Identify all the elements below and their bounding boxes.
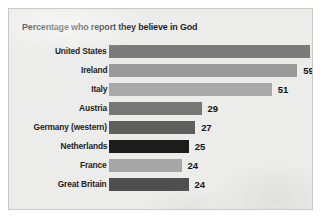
bar-category-label: Germany (western) [34, 119, 107, 136]
bar-row: Netherlands25 [9, 138, 312, 155]
bar-row: Austria29 [9, 100, 312, 117]
bar-category-label: Ireland [81, 62, 107, 79]
bar-track: 63 [109, 45, 308, 58]
bar-row: Italy51 [9, 81, 312, 98]
bar-category-label: Netherlands [60, 138, 107, 155]
bar-row: Ireland59 [9, 62, 312, 79]
bar-chart-plot-area: United States63Ireland59Italy51Austria29… [9, 43, 312, 195]
bar-value-label: 51 [278, 83, 288, 96]
bar-value-label: 25 [195, 140, 205, 153]
bar-value-label: 24 [195, 178, 205, 191]
chart-figure: Percentage who report they believe in Go… [8, 8, 313, 210]
bar-track: 24 [109, 159, 308, 172]
bar-track: 24 [109, 178, 308, 191]
bar [109, 64, 297, 77]
bar-row: Great Britain24 [9, 176, 312, 193]
bar-value-label: 24 [188, 159, 198, 172]
bar-row: Germany (western)27 [9, 119, 312, 136]
bar [109, 83, 272, 96]
chart-title: Percentage who report they believe in Go… [22, 21, 197, 32]
bar-track: 25 [109, 140, 308, 153]
bar [109, 121, 195, 134]
bar-value-label: 29 [208, 102, 218, 115]
bar [109, 45, 310, 58]
bar-row: United States63 [9, 43, 312, 60]
bar [109, 102, 202, 115]
bar-track: 51 [109, 83, 308, 96]
bar [109, 140, 189, 153]
bar-category-label: Great Britain [58, 176, 107, 193]
bar-track: 59 [109, 64, 308, 77]
bar-category-label: Austria [79, 100, 107, 117]
bar-value-label: 59 [303, 64, 313, 77]
bar-value-label: 27 [201, 121, 211, 134]
bar [109, 178, 189, 191]
bar [109, 159, 182, 172]
bar-category-label: Italy [91, 81, 107, 98]
bar-row: France24 [9, 157, 312, 174]
bar-category-label: United States [55, 43, 107, 60]
bar-track: 27 [109, 121, 308, 134]
bar-category-label: France [80, 157, 107, 174]
bar-track: 29 [109, 102, 308, 115]
